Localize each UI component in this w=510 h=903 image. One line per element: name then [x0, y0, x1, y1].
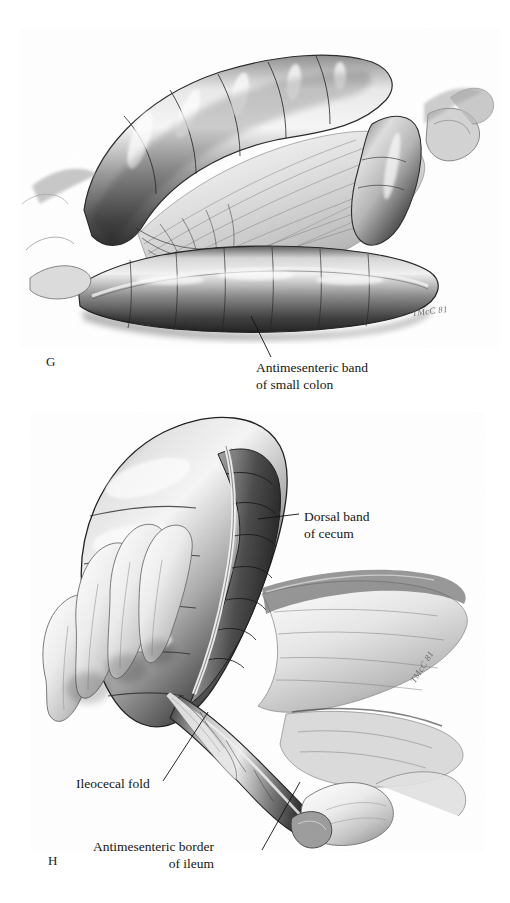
- label-line-2: of cecum: [304, 525, 370, 542]
- label-line-1: Ileocecal fold: [76, 776, 150, 791]
- label-ileocecal-fold: Ileocecal fold: [76, 775, 150, 792]
- panel-letter-g: G: [46, 354, 56, 370]
- label-line-2: of ileum: [93, 855, 214, 872]
- label-line-2: of small colon: [256, 376, 368, 393]
- label-dorsal-band-of-cecum: Dorsal band of cecum: [304, 508, 370, 542]
- label-line-1: Antimesenteric band: [256, 360, 368, 375]
- label-antimesenteric-band-of-small-colon: Antimesenteric band of small colon: [256, 359, 368, 393]
- anatomy-plate-page: G H Antimesenteric band of small colon D…: [0, 0, 510, 903]
- label-antimesenteric-border-of-ileum: Antimesenteric border of ileum: [93, 838, 214, 872]
- panel-letter-h: H: [48, 853, 58, 869]
- label-line-1: Antimesenteric border: [93, 839, 214, 854]
- illustration-panel-g: [20, 28, 500, 348]
- label-line-1: Dorsal band: [304, 509, 370, 524]
